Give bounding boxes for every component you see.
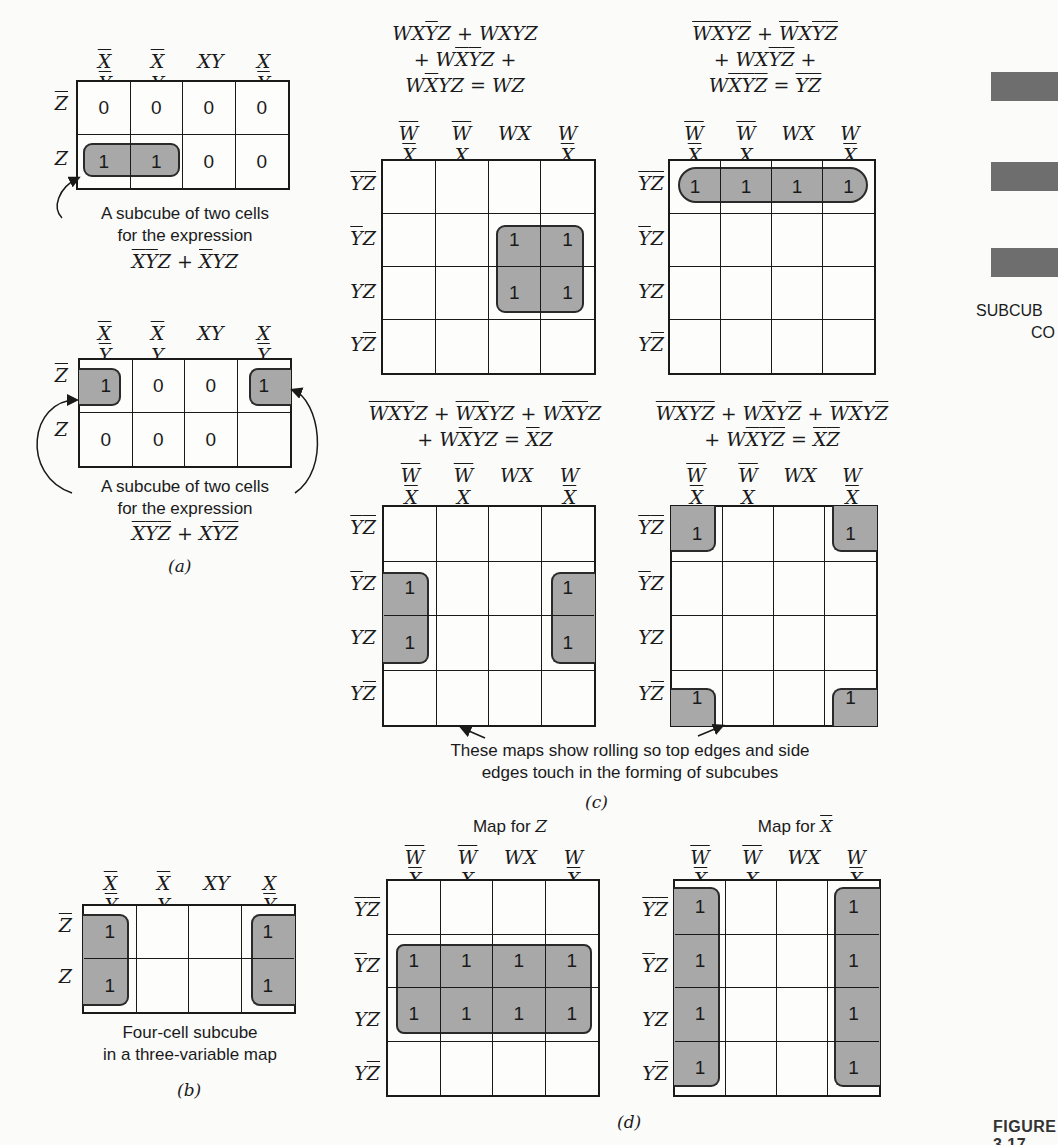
row-label-zbar: Z <box>48 364 68 386</box>
cell <box>383 214 436 267</box>
cell <box>726 1042 777 1096</box>
kmap-a1: 0 0 0 0 1 1 0 0 <box>76 80 290 190</box>
cell: 0 <box>183 82 236 135</box>
cell: 1 <box>78 135 131 188</box>
cell: 1 <box>489 267 542 320</box>
cell <box>672 562 723 617</box>
cell <box>721 320 772 373</box>
cell <box>774 562 825 617</box>
cell <box>437 562 490 617</box>
cell: 1 <box>542 616 595 671</box>
row-label: YZ <box>340 954 380 976</box>
equation-c3: WXYZ + WXYZ + WXYZ + WXYZ = XZ <box>350 400 620 452</box>
cell <box>441 881 494 935</box>
cell <box>489 507 542 562</box>
cell <box>723 671 774 726</box>
map-title-xbar: Map for X <box>695 815 895 838</box>
cell <box>437 671 490 726</box>
cell: 0 <box>183 135 236 188</box>
cell <box>546 881 599 935</box>
kmap-c4: 1 1 1 1 <box>670 505 878 727</box>
row-label-zbar: Z <box>48 92 68 114</box>
cell: 1 <box>493 935 546 989</box>
row-label: YZ <box>336 516 376 538</box>
figure-label: FIGURE 3.17 <box>993 1118 1058 1145</box>
cell: 1 <box>441 988 494 1042</box>
col-labels: WX WX WX WX <box>384 464 596 508</box>
cell <box>384 507 437 562</box>
row-label-z: Z <box>48 147 68 169</box>
cell <box>723 507 774 562</box>
equation-c2: WXYZ + WXYZ + WXYZ + WXYZ = YZ <box>640 20 890 98</box>
cell: 1 <box>84 959 137 1012</box>
cell: 1 <box>388 935 441 989</box>
cell: 1 <box>242 906 295 959</box>
cell <box>823 320 874 373</box>
cell <box>723 616 774 671</box>
cell <box>436 161 489 214</box>
row-label: YZ <box>624 333 664 355</box>
cell <box>777 935 828 989</box>
cell: 0 <box>185 360 238 413</box>
row-label: YZ <box>336 572 376 594</box>
cell <box>384 671 437 726</box>
cell: 1 <box>670 161 721 214</box>
cell <box>772 267 823 320</box>
cell <box>823 267 874 320</box>
side-caption-line2: CO <box>1031 324 1055 342</box>
cell: 1 <box>489 214 542 267</box>
cell <box>437 616 490 671</box>
cell: 1 <box>238 360 291 413</box>
cell <box>189 906 242 959</box>
arrow-c-left <box>462 728 485 738</box>
panel-label-d: (d) <box>617 1112 641 1132</box>
row-label: YZ <box>340 898 380 920</box>
kmap-c1: 1 1 1 1 <box>381 159 596 375</box>
row-label-z: Z <box>48 418 68 440</box>
kmap-c2: 1 1 1 1 <box>668 159 876 375</box>
cell <box>721 267 772 320</box>
cell <box>774 616 825 671</box>
row-label: YZ <box>628 954 668 976</box>
cell <box>542 671 595 726</box>
row-label: YZ <box>624 572 664 594</box>
row-label: YZ <box>624 626 664 648</box>
cell <box>493 1042 546 1096</box>
cell <box>772 214 823 267</box>
cell <box>726 988 777 1042</box>
cell <box>726 881 777 935</box>
cell: 0 <box>80 413 133 466</box>
cell <box>441 1042 494 1096</box>
caption-a1: A subcube of two cells for the expressio… <box>70 203 300 247</box>
cell: 1 <box>541 214 594 267</box>
row-label: YZ <box>624 682 664 704</box>
cell <box>436 214 489 267</box>
cell <box>493 881 546 935</box>
row-label: YZ <box>340 1008 380 1030</box>
row-label-z: Z <box>52 965 72 987</box>
cell: 1 <box>675 881 726 935</box>
cell <box>726 935 777 989</box>
arrow-c-right <box>698 726 722 736</box>
col-labels: WX WX WX WX <box>670 464 878 508</box>
cell: 1 <box>721 161 772 214</box>
cell <box>823 214 874 267</box>
row-label: YZ <box>336 227 376 249</box>
cell: 1 <box>541 267 594 320</box>
cell <box>137 959 190 1012</box>
row-label: YZ <box>624 172 664 194</box>
cell <box>721 214 772 267</box>
cell <box>489 616 542 671</box>
caption-a2: A subcube of two cells for the expressio… <box>70 476 300 520</box>
cell: 1 <box>675 935 726 989</box>
cell <box>189 959 242 1012</box>
map-title-z: Map for Z <box>410 815 610 838</box>
cell: 1 <box>546 988 599 1042</box>
cell <box>670 267 721 320</box>
cell: 1 <box>675 988 726 1042</box>
cell: 1 <box>828 988 879 1042</box>
cell: 1 <box>672 671 723 726</box>
cell <box>436 320 489 373</box>
cell <box>437 507 490 562</box>
equation-c4: WXYZ + WXYZ + WXYZ + WXYZ = XZ <box>632 400 912 452</box>
